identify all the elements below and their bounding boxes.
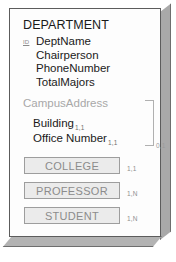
composite-item: Office Number1,1 <box>33 128 159 143</box>
composite-item-cardinality: 1,1 <box>108 139 118 146</box>
attribute-row: Chairperson <box>23 49 155 63</box>
attribute-name: TotalMajors <box>36 76 95 88</box>
related-entity-cardinality: 1,1 <box>127 165 137 172</box>
related-entity-college[interactable]: COLLEGE <box>24 157 120 174</box>
related-entity-label: PROFESSOR <box>36 185 108 197</box>
attribute-row: PhoneNumber <box>23 62 155 76</box>
composite-item: Building1,1 <box>33 113 159 128</box>
related-entity-list: COLLEGE 1,1 PROFESSOR 1,N STUDENT 1,N <box>24 157 160 232</box>
related-entity-row: COLLEGE 1,1 <box>24 157 160 182</box>
attribute-name: Chairperson <box>36 49 99 61</box>
related-entity-professor[interactable]: PROFESSOR <box>24 182 120 199</box>
related-entity-label: COLLEGE <box>45 160 99 172</box>
attribute-list: ID DeptName Chairperson PhoneNumber Tota… <box>23 35 155 89</box>
card-stack-bottom-edge <box>3 236 162 247</box>
composite-item-name: Office Number <box>33 132 107 144</box>
composite-attribute-title: CampusAddress <box>23 97 108 109</box>
related-entity-label: STUDENT <box>45 210 99 222</box>
attribute-row: ID DeptName <box>23 35 155 49</box>
card-stack-right-edge <box>160 3 171 240</box>
primary-key-marker-icon: ID <box>23 39 29 45</box>
entity-card: DEPARTMENT ID DeptName Chairperson Phone… <box>9 8 161 237</box>
entity-title: DEPARTMENT <box>23 18 109 32</box>
related-entity-student[interactable]: STUDENT <box>24 207 120 224</box>
attribute-name: PhoneNumber <box>36 62 110 74</box>
composite-group-bracket <box>145 100 154 146</box>
attribute-name: DeptName <box>36 35 91 47</box>
related-entity-row: STUDENT 1,N <box>24 207 160 232</box>
attribute-row: TotalMajors <box>23 76 155 90</box>
related-entity-cardinality: 1,N <box>127 215 138 222</box>
related-entity-row: PROFESSOR 1,N <box>24 182 160 207</box>
related-entity-cardinality: 1,N <box>127 190 138 197</box>
composite-group-cardinality: 0,1 <box>156 142 166 149</box>
composite-item-list: Building1,1 Office Number1,1 <box>33 113 159 142</box>
entity-card-diagram: DEPARTMENT ID DeptName Chairperson Phone… <box>0 0 176 262</box>
